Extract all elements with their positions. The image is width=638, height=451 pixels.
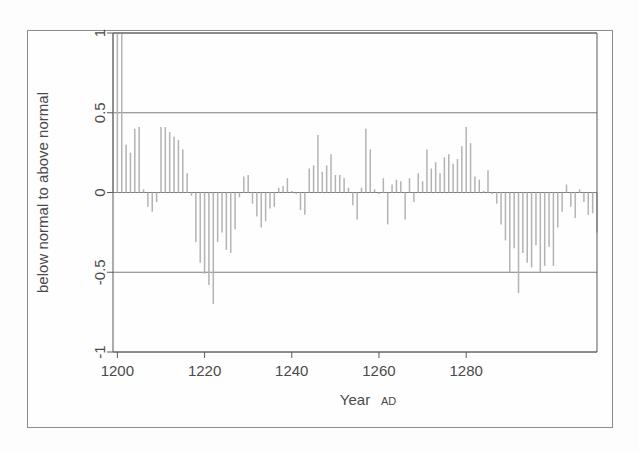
y-tick-label: -1	[91, 345, 108, 358]
x-tick-label: 1260	[362, 362, 395, 379]
y-tick-label: 0	[91, 188, 108, 196]
tick-marks	[107, 33, 466, 358]
grid-lines	[113, 33, 597, 352]
bar-chart: 10.50-0.5-1 12001220124012601280 below n…	[0, 0, 638, 451]
x-tick-label: 1240	[275, 362, 308, 379]
x-axis-title-suffix: AD	[381, 395, 396, 407]
y-tick-label: 0.5	[91, 102, 108, 123]
figure-canvas: 10.50-0.5-1 12001220124012601280 below n…	[0, 0, 638, 451]
x-tick-label: 1220	[188, 362, 221, 379]
x-tick-label: 1200	[101, 362, 134, 379]
y-tick-labels: 10.50-0.5-1	[91, 29, 108, 359]
x-tick-label: 1280	[450, 362, 483, 379]
axis-titles: below normal to above normalYearAD	[34, 92, 396, 408]
y-tick-label: -0.5	[91, 259, 108, 285]
y-axis-title: below normal to above normal	[34, 92, 51, 293]
y-tick-label: 1	[91, 29, 108, 37]
bar-series	[113, 33, 597, 304]
x-tick-labels: 12001220124012601280	[101, 362, 483, 379]
x-axis-title: Year	[340, 391, 370, 408]
